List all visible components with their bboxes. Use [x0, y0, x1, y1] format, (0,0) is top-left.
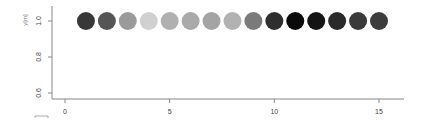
- data-point: [244, 12, 262, 30]
- data-point: [286, 12, 304, 30]
- y-axis-title: y[m]: [22, 14, 28, 26]
- y-tick-label: 1.0: [35, 16, 42, 26]
- data-point: [349, 12, 367, 30]
- data-point: [328, 12, 346, 30]
- data-points: [77, 12, 388, 30]
- scatter-plot: 051015 0.60.81.0 y[m]: [0, 0, 426, 130]
- x-axis-ticks: 051015: [63, 99, 383, 115]
- data-point: [203, 12, 221, 30]
- data-point: [119, 12, 137, 30]
- data-point: [77, 12, 95, 30]
- x-tick-label: 5: [168, 108, 172, 115]
- data-point: [140, 12, 158, 30]
- data-point: [370, 12, 388, 30]
- legend-box-fragment: [35, 116, 48, 118]
- data-point: [223, 12, 241, 30]
- y-tick-label: 0.8: [35, 52, 42, 62]
- y-axis-ticks: 0.60.81.0: [35, 16, 52, 98]
- data-point: [182, 12, 200, 30]
- x-tick-label: 15: [375, 108, 383, 115]
- y-tick-label: 0.6: [35, 88, 42, 98]
- x-tick-label: 0: [63, 108, 67, 115]
- data-point: [161, 12, 179, 30]
- data-point: [265, 12, 283, 30]
- data-point: [98, 12, 116, 30]
- data-point: [307, 12, 325, 30]
- x-tick-label: 10: [270, 108, 278, 115]
